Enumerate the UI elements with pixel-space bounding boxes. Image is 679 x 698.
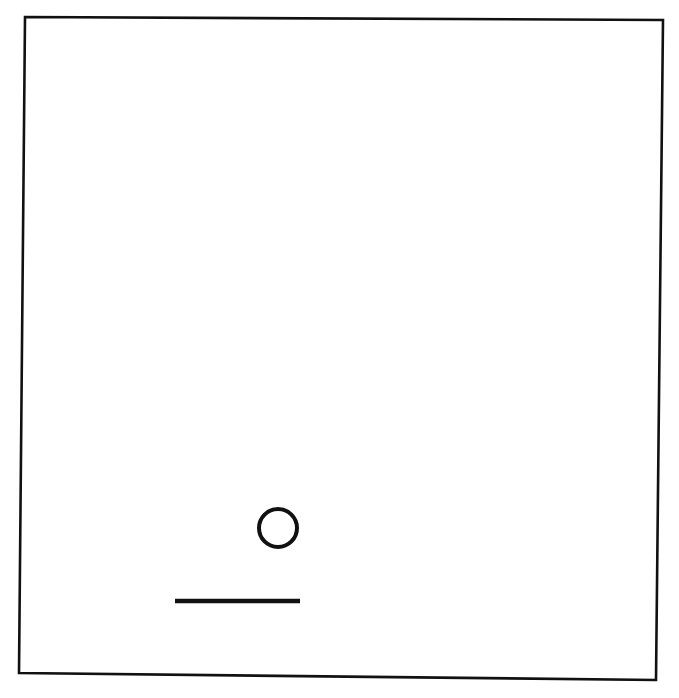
figure-canvas [0,0,679,698]
canvas-background [0,0,679,698]
figure-drawing [0,0,679,698]
